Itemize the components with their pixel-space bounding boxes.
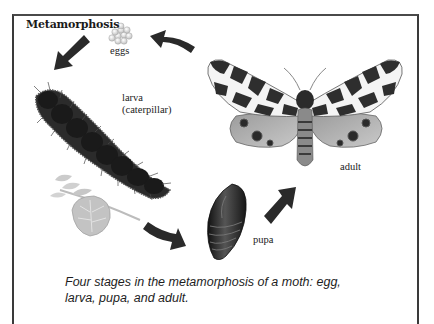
arrow-adult-to-eggs-icon (150, 30, 195, 53)
caterpillar-icon (34, 82, 171, 200)
adult-label: adult (340, 161, 361, 173)
larva-label: larva (122, 92, 143, 104)
figure-title: Metamorphosis (26, 18, 119, 31)
figure-caption: Four stages in the metamorphosis of a mo… (65, 274, 365, 306)
arrow-pupa-to-adult-icon (264, 187, 296, 224)
arrow-eggs-to-larva-icon (54, 35, 90, 70)
pupa-label: pupa (253, 234, 273, 246)
arrow-larva-to-pupa-icon (143, 222, 186, 250)
caption-line-1: Four stages in the metamorphosis of a mo… (65, 274, 365, 290)
caterpillar-label: (caterpillar) (122, 104, 172, 116)
caption-line-2: larva, pupa, and adult. (65, 290, 365, 306)
eggs-label: eggs (110, 45, 129, 57)
pupa-icon (208, 184, 247, 260)
moth-icon (208, 60, 402, 166)
